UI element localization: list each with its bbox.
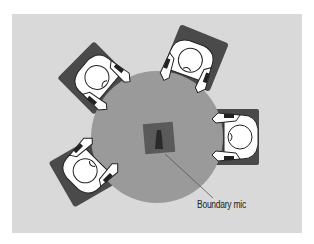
boundary-mic-icon <box>143 122 176 155</box>
meeting-diagram <box>0 0 314 244</box>
boundary-mic-label: Boundary mic <box>197 199 246 210</box>
